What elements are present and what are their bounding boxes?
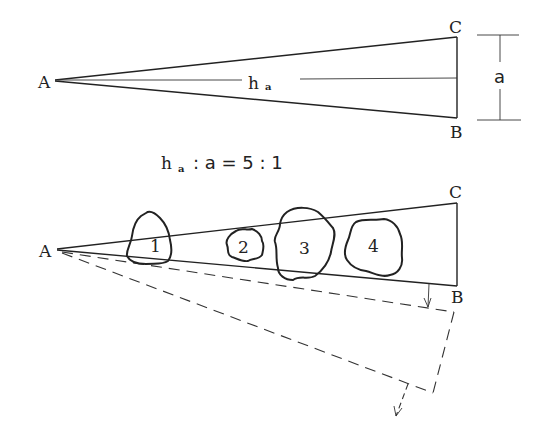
side-ab (57, 250, 457, 286)
object-3-label: 3 (299, 238, 310, 258)
ratio-subscript: a (178, 163, 185, 174)
vertex-c-label: C (449, 17, 462, 37)
height-subscript: a (265, 81, 272, 92)
height-line-right (300, 78, 457, 79)
bottom-triangle: A C B 1 2 3 (38, 182, 464, 416)
side-a-label: a (494, 66, 505, 87)
ratio-h: h (161, 153, 172, 173)
vertex-a-label: A (38, 241, 52, 261)
height-label: h (248, 73, 259, 93)
ratio-value: : a = 5 : 1 (193, 152, 283, 173)
vertex-b-label: B (451, 287, 464, 307)
rotation-arrow-2 (394, 384, 408, 416)
object-2: 2 (227, 229, 264, 261)
object-4: 4 (345, 219, 402, 276)
object-3: 3 (275, 208, 335, 280)
vertex-c-label: C (449, 182, 462, 202)
vertex-a-label: A (37, 72, 51, 92)
rotation-arrow-1 (424, 284, 431, 307)
dimension-marker-a: a (477, 35, 521, 120)
top-triangle: A C B h a a (37, 17, 521, 142)
ratio-caption: h a : a = 5 : 1 (161, 152, 283, 174)
object-4-label: 4 (368, 236, 379, 256)
object-1-label: 1 (150, 236, 161, 256)
vertex-b-label: B (450, 122, 463, 142)
object-2-label: 2 (238, 237, 249, 257)
triangle-diagram: A C B h a a h a : a = 5 : 1 A C B (0, 0, 552, 437)
